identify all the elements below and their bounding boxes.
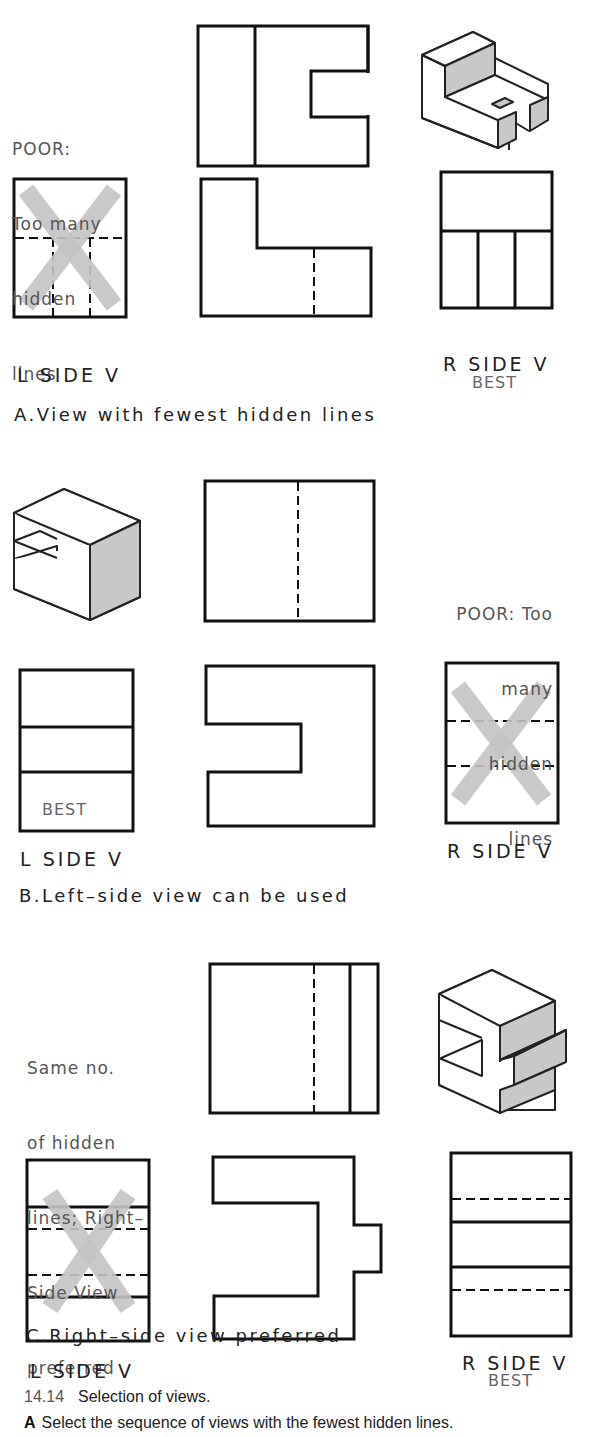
section-b-front-view [206,666,374,826]
section-b-note: POOR: Too many hidden lines [456,552,553,877]
section-c-right-side-view [451,1153,571,1336]
note-line: of hidden [27,1131,144,1156]
section-b-isometric [14,489,140,620]
figure-title: 14.14Selection of views. [24,1389,211,1405]
section-b-top-view [205,481,374,621]
section-a-top-view [198,26,373,166]
section-a-caption: A.View with fewest hidden lines [14,406,376,424]
section-b-left-label: L SIDE V [20,850,124,869]
note-line: Same no. [27,1056,144,1081]
section-b-right-label: R SIDE V [447,842,554,861]
section-b-best-label: BEST [42,802,87,818]
note-line: lines; Right– [27,1206,144,1231]
note-line: POOR: [12,137,102,162]
note-line: hidden [456,752,553,777]
caption-letter: A [24,1414,36,1431]
figure-caption: ASelect the sequence of views with the f… [24,1415,453,1431]
note-line: Too many [12,212,102,237]
section-c-top-view [210,964,378,1113]
section-c-isometric [439,970,566,1113]
note-line: many [456,677,553,702]
section-c-front-view [213,1157,381,1339]
note-line: POOR: Too [456,602,553,627]
note-line: Side View [27,1281,144,1306]
figure-number: 14.14 [24,1388,64,1405]
section-c-left-label: L SIDE V [30,1362,134,1381]
figure-title-text: Selection of views. [78,1388,211,1405]
note-line: hidden [12,287,102,312]
section-a-right-side-view [441,172,552,308]
caption-text: Select the sequence of views with the fe… [42,1414,454,1431]
section-a-best-label: BEST [472,375,517,391]
section-c-note: Same no. of hidden lines; Right– Side Vi… [27,1006,144,1406]
section-a-left-label: L SIDE V [17,366,121,385]
section-a-right-label: R SIDE V [443,355,550,374]
section-a-front-view [201,179,371,316]
section-a-isometric [422,32,548,150]
section-c-caption: C.Right–side view preferred [26,1327,341,1345]
section-c-best-label: BEST [488,1373,533,1389]
section-b-caption: B.Left–side view can be used [19,887,349,905]
